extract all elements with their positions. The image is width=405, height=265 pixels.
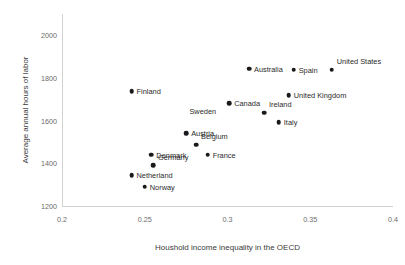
chart-page: 12001400160018002000 0.20.250.30.350.4 A… bbox=[0, 0, 405, 265]
data-point-label: Italy bbox=[284, 118, 298, 127]
data-point-marker[interactable] bbox=[129, 89, 134, 94]
data-point-label: Finland bbox=[137, 87, 161, 96]
scatter-plot-area: 12001400160018002000 0.20.250.30.350.4 A… bbox=[62, 14, 393, 206]
data-point-marker[interactable] bbox=[151, 163, 156, 168]
data-point-label: Australia bbox=[254, 64, 283, 73]
data-point-label: Belgium bbox=[201, 131, 228, 140]
data-point-label: Germany bbox=[158, 153, 188, 162]
x-axis-line bbox=[62, 206, 393, 207]
data-point-marker[interactable] bbox=[205, 153, 210, 158]
y-tick-label: 1400 bbox=[41, 159, 57, 168]
y-tick-label: 1600 bbox=[41, 116, 57, 125]
x-tick-label: 0.3 bbox=[223, 215, 233, 224]
data-point-marker[interactable] bbox=[129, 173, 134, 178]
data-point-label: Norway bbox=[150, 182, 175, 191]
data-point-label: United Kingdom bbox=[294, 91, 347, 100]
data-point-label: Canada bbox=[234, 99, 260, 108]
data-point-marker[interactable] bbox=[262, 110, 267, 115]
x-tick-label: 0.25 bbox=[138, 215, 152, 224]
y-axis-line bbox=[62, 14, 63, 206]
data-point-label: United States bbox=[337, 56, 381, 65]
data-point-label: Spain bbox=[299, 65, 318, 74]
data-point-marker[interactable] bbox=[291, 68, 296, 73]
data-point-marker[interactable] bbox=[194, 142, 199, 147]
data-point-marker[interactable] bbox=[149, 153, 154, 158]
y-tick-label: 2000 bbox=[41, 31, 57, 40]
x-tick-label: 0.4 bbox=[388, 215, 398, 224]
data-point-marker[interactable] bbox=[184, 131, 189, 136]
data-point-label: Netherland bbox=[137, 171, 173, 180]
data-point-marker[interactable] bbox=[247, 67, 252, 72]
x-tick-label: 0.35 bbox=[303, 215, 317, 224]
y-tick-label: 1200 bbox=[41, 202, 57, 211]
data-point-marker[interactable] bbox=[329, 68, 334, 73]
y-tick-label: 1800 bbox=[41, 74, 57, 83]
data-point-label: Ireland bbox=[269, 99, 292, 108]
data-point-label: Sweden bbox=[189, 107, 216, 116]
data-point-marker[interactable] bbox=[227, 101, 232, 106]
x-tick-label: 0.2 bbox=[57, 215, 67, 224]
data-point-marker[interactable] bbox=[277, 120, 282, 125]
y-axis-title: Average annual hours of labor bbox=[19, 14, 33, 206]
data-point-marker[interactable] bbox=[286, 93, 291, 98]
x-axis-title: Houshold income inequality in the OECD bbox=[62, 243, 393, 252]
data-point-label: France bbox=[213, 150, 236, 159]
data-point-marker[interactable] bbox=[142, 185, 147, 190]
